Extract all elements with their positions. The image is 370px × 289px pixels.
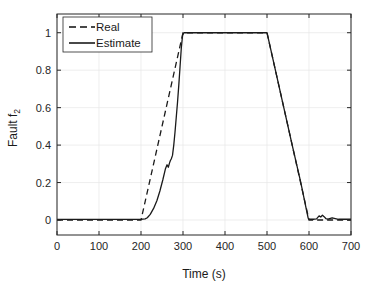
- chart-figure: 0100200300400500600700 00.20.40.60.81 Ti…: [0, 0, 370, 289]
- x-tick-label: 700: [342, 240, 360, 252]
- y-tick-label: 0: [45, 214, 51, 226]
- svg-text:Fault f2: Fault f2: [6, 109, 22, 147]
- y-axis-title: Fault f2: [6, 109, 22, 147]
- x-tick-label: 600: [300, 240, 318, 252]
- x-tick-label: 400: [216, 240, 234, 252]
- y-tick-label: 0.2: [36, 177, 51, 189]
- legend-label-estimate: Estimate: [96, 37, 141, 49]
- y-tick-label: 0.6: [36, 102, 51, 114]
- x-tick-label: 300: [174, 240, 192, 252]
- x-axis-title: Time (s): [182, 267, 226, 281]
- x-tick-label: 0: [54, 240, 60, 252]
- x-tick-label: 500: [258, 240, 276, 252]
- y-tick-label: 0.4: [36, 139, 51, 151]
- y-tick-label: 0.8: [36, 64, 51, 76]
- line-chart: 0100200300400500600700 00.20.40.60.81 Ti…: [0, 0, 370, 289]
- y-tick-label: 1: [45, 27, 51, 39]
- x-tick-label: 200: [132, 240, 150, 252]
- y-axis-title-subscript: 2: [12, 109, 22, 114]
- y-axis-title-base: Fault f: [6, 113, 20, 147]
- chart-legend[interactable]: Real Estimate: [63, 17, 152, 52]
- x-tick-label: 100: [90, 240, 108, 252]
- legend-label-real: Real: [96, 21, 120, 33]
